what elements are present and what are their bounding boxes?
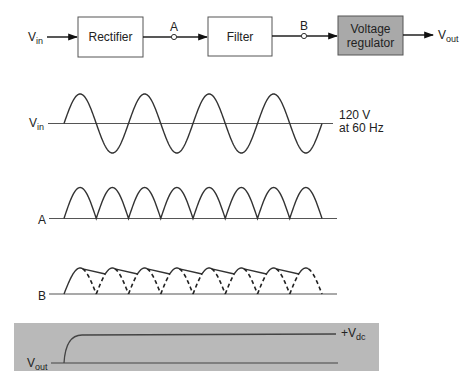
rectifier-label: Rectifier bbox=[88, 30, 132, 44]
block-diagram: Vin Rectifier A Filter B Voltage regulat… bbox=[28, 16, 459, 57]
node-a-label: A bbox=[170, 20, 178, 34]
filter-label: Filter bbox=[227, 30, 254, 44]
a-waveform-label: A bbox=[38, 213, 46, 227]
vin-waveform: Vin 120 V at 60 Hz bbox=[29, 94, 384, 153]
voltage-regulator-label-line1: Voltage bbox=[350, 22, 390, 36]
power-supply-diagram: Vin Rectifier A Filter B Voltage regulat… bbox=[0, 0, 472, 386]
node-a bbox=[171, 34, 176, 39]
vin-input-label: Vin bbox=[28, 30, 43, 46]
a-rectified-curve bbox=[64, 188, 322, 219]
vout-output-label: Vout bbox=[438, 28, 459, 44]
vout-panel bbox=[14, 323, 379, 371]
vin-frequency-annotation: at 60 Hz bbox=[339, 121, 384, 135]
a-waveform: A bbox=[38, 188, 337, 228]
node-b bbox=[301, 33, 306, 38]
b-filtered-curve bbox=[64, 268, 308, 294]
vout-waveform: Vout +Vdc bbox=[14, 323, 379, 372]
vin-voltage-annotation: 120 V bbox=[339, 108, 370, 122]
b-waveform: B bbox=[38, 268, 337, 303]
vin-waveform-label: Vin bbox=[29, 116, 44, 132]
b-waveform-label: B bbox=[38, 289, 46, 303]
voltage-regulator-label-line2: regulator bbox=[347, 36, 394, 50]
node-b-label: B bbox=[300, 19, 308, 33]
